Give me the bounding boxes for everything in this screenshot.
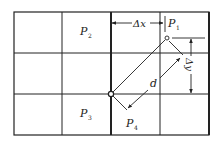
label-p2: P 2 [79, 25, 92, 39]
svg-text:P: P [79, 107, 88, 120]
d-dimension [112, 40, 183, 110]
p1-point [165, 36, 169, 40]
label-p3: P 3 [79, 107, 92, 121]
grid-diagram: Δx Δy d P 2 P 1 P 3 P 4 [0, 0, 222, 146]
svg-text:2: 2 [88, 32, 92, 39]
svg-text:3: 3 [88, 114, 92, 121]
label-p4: P 4 [125, 117, 138, 131]
svg-text:P: P [167, 17, 176, 30]
svg-text:P: P [79, 25, 88, 38]
svg-text:4: 4 [134, 124, 138, 131]
origin-point [108, 91, 113, 96]
dx-label: Δx [132, 18, 146, 29]
d-label: d [150, 77, 157, 90]
dy-label: Δy [184, 57, 195, 71]
label-p1: P 1 [167, 17, 180, 31]
svg-text:1: 1 [176, 24, 180, 31]
svg-text:P: P [125, 117, 134, 130]
